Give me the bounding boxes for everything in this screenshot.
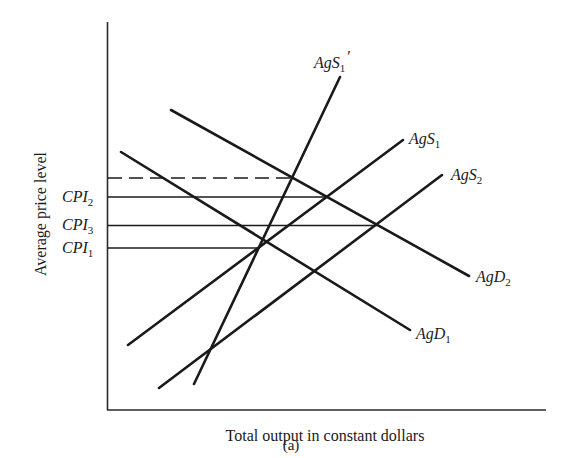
x-axis-title: Total output in constant dollars	[226, 427, 425, 445]
curve-ags2	[159, 175, 442, 388]
label-cpi2: CPI2	[62, 188, 93, 208]
label-ags1: AgS1	[408, 130, 440, 150]
label-cpi1: CPI1	[62, 239, 93, 259]
cpi-labels: CPI2 CPI3 CPI1	[62, 188, 94, 259]
label-cpi3: CPI3	[62, 216, 94, 236]
label-agd1: AgD1	[415, 325, 451, 345]
curve-ags1-prime	[194, 77, 340, 384]
axes	[107, 22, 546, 410]
y-axis-title: Average price level	[32, 151, 50, 276]
label-ags2: AgS2	[450, 166, 482, 186]
label-agd2: AgD2	[475, 268, 511, 288]
label-ags1-prime: AgS1′	[313, 48, 350, 74]
ad-as-diagram: AgS1′ AgS1 AgS2 AgD2 AgD1 CPI2 CPI3 CPI1…	[0, 0, 562, 458]
figure-caption: (a)	[283, 437, 300, 454]
